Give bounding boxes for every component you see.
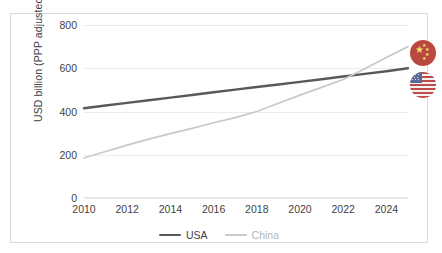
legend-swatch-china [225,234,247,237]
chart-legend: USAChina [11,229,427,241]
x-axis-tick-label: 2014 [159,203,182,215]
legend-item-usa[interactable]: USA [159,229,208,241]
x-axis-tick-label: 2012 [116,203,139,215]
series-line-usa [84,68,408,108]
usa-flag-icon [410,72,436,98]
china-flag-icon: ★ ★ ★ ★ ★ [410,40,436,66]
y-axis-tick-label: 800 [59,19,77,31]
gridline [84,198,408,199]
y-axis-tick-label: 400 [59,106,77,118]
legend-item-china[interactable]: China [225,229,279,241]
x-axis-tick-label: 2022 [332,203,355,215]
legend-label-china: China [252,229,279,241]
x-axis-tick-label: 2024 [375,203,398,215]
y-axis-title: USD billion (PPP adjusted) [32,0,44,133]
x-axis-tick-label: 2020 [288,203,311,215]
y-axis-tick-label: 600 [59,62,77,74]
y-axis-tick-label: 200 [59,149,77,161]
x-axis-tick-label: 2010 [72,203,95,215]
legend-label-usa: USA [186,229,208,241]
series-lines [84,25,408,198]
chart-frame: USD billion (PPP adjusted) 0200400600800… [10,13,428,243]
plot-area: 0200400600800 20102012201420162018202020… [84,25,408,198]
x-axis-tick-label: 2018 [245,203,268,215]
chart-screenshot: USD billion (PPP adjusted) 0200400600800… [0,0,442,253]
x-axis-tick-label: 2016 [202,203,225,215]
legend-swatch-usa [159,234,181,237]
